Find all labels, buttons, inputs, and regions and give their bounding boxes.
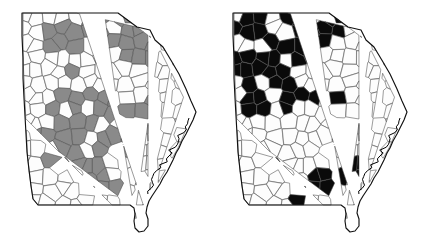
right-county-layer (234, 13, 397, 219)
county-plain (93, 186, 94, 187)
county-highlighted (109, 179, 124, 196)
county-plain (173, 103, 182, 119)
county-plain (358, 144, 359, 156)
county-highlighted (309, 181, 320, 189)
county-highlighted (339, 167, 347, 186)
county-highlighted (146, 51, 148, 67)
county-plain (149, 36, 151, 37)
county-plain (254, 168, 270, 186)
county-highlighted (234, 64, 240, 77)
county-plain (346, 103, 359, 119)
county-plain (332, 139, 333, 143)
county-plain (136, 193, 143, 205)
county-plain (370, 79, 380, 94)
left-map-panel (0, 0, 210, 242)
county-plain (30, 169, 44, 184)
county-plain (241, 169, 255, 184)
county-plain (26, 130, 30, 141)
county-plain (102, 195, 108, 200)
county-highlighted (118, 104, 136, 118)
county-highlighted (41, 152, 63, 167)
county-plain (318, 195, 331, 205)
county-highlighted (304, 186, 305, 187)
right-map-panel (211, 0, 421, 242)
county-highlighted (131, 48, 145, 64)
county-plain (171, 73, 175, 81)
county-plain (161, 102, 164, 117)
two-map-figure (0, 0, 421, 242)
county-plain (386, 119, 388, 122)
county-plain (341, 185, 346, 196)
georgia-county-map-left (0, 0, 210, 242)
county-plain (354, 145, 358, 156)
county-plain (371, 92, 377, 102)
county-plain (118, 91, 135, 104)
county-plain (347, 193, 354, 205)
county-highlighted (291, 51, 307, 66)
county-plain (382, 73, 386, 81)
county-plain (107, 195, 120, 205)
county-plain (143, 145, 147, 156)
county-plain (381, 141, 391, 158)
county-highlighted (135, 103, 148, 119)
county-highlighted (124, 146, 128, 158)
county-highlighted (241, 62, 253, 78)
county-highlighted (320, 179, 335, 196)
county-plain (252, 152, 274, 167)
county-plain (147, 144, 148, 156)
county-highlighted (98, 181, 109, 189)
county-plain (160, 92, 166, 102)
georgia-county-map-right (211, 0, 421, 242)
county-highlighted (121, 139, 122, 143)
county-plain (360, 36, 362, 37)
county-plain (128, 167, 136, 186)
county-plain (372, 133, 382, 147)
county-plain (43, 168, 59, 186)
county-plain (357, 51, 359, 67)
county-plain (237, 130, 241, 141)
county-plain (368, 145, 378, 159)
county-plain (30, 62, 42, 78)
county-plain (80, 51, 96, 66)
county-plain (329, 104, 347, 118)
county-plain (372, 102, 375, 117)
county-plain (313, 195, 319, 200)
county-plain (175, 119, 177, 122)
county-plain (23, 64, 29, 77)
left-county-layer (23, 13, 186, 219)
county-highlighted (329, 91, 346, 104)
county-plain (170, 141, 180, 158)
county-plain (159, 79, 169, 94)
county-plain (126, 157, 131, 168)
county-plain (161, 133, 171, 147)
county-plain (384, 103, 393, 119)
county-plain (160, 118, 175, 135)
county-plain (337, 157, 342, 168)
county-plain (342, 48, 356, 64)
county-plain (335, 146, 339, 158)
county-highlighted (356, 170, 359, 177)
county-plain (145, 170, 148, 177)
county-plain (371, 118, 386, 135)
county-plain (157, 145, 167, 159)
county-plain (130, 185, 135, 196)
county-plain (369, 181, 370, 183)
county-plain (158, 181, 159, 183)
